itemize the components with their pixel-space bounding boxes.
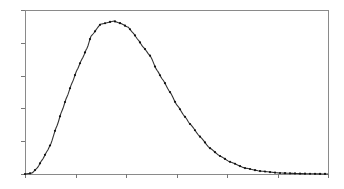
data-point-marker — [94, 30, 96, 32]
data-point-marker — [184, 116, 186, 118]
data-point-marker — [139, 41, 141, 43]
data-point-marker — [319, 173, 321, 175]
data-point-marker — [69, 87, 71, 89]
data-point-marker — [189, 123, 191, 125]
data-point-marker — [284, 172, 286, 174]
data-point-marker — [254, 169, 256, 171]
data-point-marker — [309, 173, 311, 175]
data-point-marker — [134, 34, 136, 36]
data-point-marker — [279, 172, 281, 174]
plot-frame — [26, 11, 329, 175]
y-axis-ticks — [21, 11, 25, 175]
data-point-marker — [194, 129, 196, 131]
data-point-marker — [159, 74, 161, 76]
data-point-marker — [304, 173, 306, 175]
data-point-marker — [64, 101, 66, 103]
data-point-marker — [144, 48, 146, 50]
data-point-marker — [114, 20, 116, 22]
data-point-marker — [219, 155, 221, 157]
data-point-marker — [99, 24, 101, 26]
data-point-marker — [249, 168, 251, 170]
data-point-marker — [84, 51, 86, 53]
data-point-marker — [109, 21, 111, 23]
data-point-marker — [299, 173, 301, 175]
data-point-marker — [164, 82, 166, 84]
data-point-marker — [294, 172, 296, 174]
data-point-marker — [214, 151, 216, 153]
data-point-marker — [209, 147, 211, 149]
data-point-marker — [149, 55, 151, 57]
data-point-marker — [264, 170, 266, 172]
data-point-marker — [314, 173, 316, 175]
data-point-marker — [239, 165, 241, 167]
data-point-marker — [124, 25, 126, 27]
data-point-marker — [89, 38, 91, 40]
data-point-marker — [24, 173, 26, 175]
data-point-marker — [39, 162, 41, 164]
data-point-marker — [29, 172, 31, 174]
data-point-marker — [79, 62, 81, 64]
data-point-marker — [34, 169, 36, 171]
data-point-marker — [259, 170, 261, 172]
data-markers — [24, 20, 326, 175]
data-point-marker — [119, 22, 121, 24]
data-point-marker — [59, 115, 61, 117]
data-point-marker — [269, 171, 271, 173]
data-point-marker — [274, 171, 276, 173]
data-point-marker — [234, 163, 236, 165]
data-point-marker — [44, 154, 46, 156]
data-point-marker — [229, 161, 231, 163]
data-point-marker — [179, 108, 181, 110]
data-point-marker — [154, 65, 156, 67]
data-point-marker — [169, 91, 171, 93]
data-point-marker — [224, 158, 226, 160]
data-point-marker — [49, 144, 51, 146]
data-point-marker — [174, 101, 176, 103]
data-point-marker — [74, 74, 76, 76]
data-point-marker — [244, 167, 246, 169]
data-point-marker — [129, 28, 131, 30]
data-point-marker — [54, 130, 56, 132]
data-point-marker — [199, 136, 201, 138]
data-point-marker — [289, 172, 291, 174]
data-point-marker — [204, 141, 206, 143]
data-line — [25, 21, 328, 174]
data-point-marker — [104, 22, 106, 24]
line-chart — [0, 0, 344, 189]
data-point-marker — [324, 173, 326, 175]
